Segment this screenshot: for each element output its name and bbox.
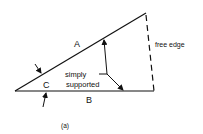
corner-arrow-upper-icon bbox=[35, 64, 41, 73]
edge-b-label: B bbox=[86, 95, 92, 105]
figure-caption: (a) bbox=[61, 122, 69, 130]
supported-label: supported bbox=[66, 80, 99, 89]
corner-c-label: C bbox=[43, 80, 50, 90]
free-edge-label: free edge bbox=[155, 41, 185, 49]
edge-a-label: A bbox=[74, 39, 80, 49]
plate-diagram: A C B simply supported free edge (a) bbox=[0, 0, 203, 134]
corner-arrow-lower-icon bbox=[43, 93, 46, 107]
simply-label: simply bbox=[65, 70, 87, 79]
free-edge-line bbox=[146, 15, 154, 91]
support-arrow-up-icon bbox=[104, 40, 107, 74]
support-arrow-down-icon bbox=[107, 74, 123, 90]
